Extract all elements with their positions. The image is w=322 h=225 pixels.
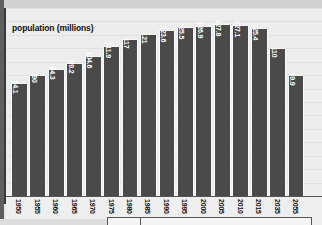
bar: 127.1 [232,25,249,196]
bar: 111.9 [103,46,120,196]
x-tick-label: 2005 [218,199,225,214]
bar: 121 [140,34,157,196]
bar: 89.9 [288,75,305,196]
bar: 99.2 [66,63,83,196]
bar: 104.6 [85,56,102,196]
bar-value-label: 89.9 [289,73,296,86]
bar: 110 [269,48,286,196]
x-tick-label: 2035 [274,199,281,214]
bar: 126.9 [195,26,212,196]
bar-value-label: 84.1 [12,81,19,94]
bar: 117 [122,39,139,196]
chart-frame: population (millions) 84.19094.399.2104.… [0,0,322,225]
plot-area: population (millions) 84.19094.399.2104.… [6,8,322,196]
bar-value-label: 126.9 [197,21,204,38]
x-tick-label: 1985 [144,199,151,214]
x-tick-label: 1970 [89,199,96,214]
bar-value-label: 111.9 [105,42,112,58]
bar: 125.4 [251,28,268,196]
bar-value-label: 127.1 [234,21,241,38]
x-tick-label: 2000 [200,199,207,214]
bar-value-label: 104.6 [86,51,93,68]
bar: 94.3 [48,69,65,196]
bar: 127.8 [214,24,231,196]
x-tick-label: 1990 [163,199,170,214]
x-tick-label: 1980 [126,199,133,214]
bar-value-label: 90 [31,75,38,82]
bar-value-label: 99.2 [68,60,75,73]
bottom-left-strip [0,219,107,225]
bar-value-label: 94.3 [49,67,56,80]
chart-title: population (millions) [12,23,93,33]
bar-value-label: 123.6 [160,26,167,43]
bar-value-label: 121 [141,32,148,43]
x-tick-label: 2055 [292,199,299,214]
gridline [6,8,322,9]
x-tick-label: 1975 [108,199,115,214]
x-tick-label: 1960 [52,199,59,214]
x-tick-label: 2015 [255,199,262,214]
bar-value-label: 127.8 [215,20,222,37]
bar: 125.5 [177,27,194,196]
bar-value-label: 110 [271,47,278,58]
bottom-table-divider [140,218,141,225]
bottom-table-fragment [107,217,312,225]
bar-value-label: 117 [123,38,130,49]
bar-value-label: 125.5 [178,23,185,40]
bar-value-label: 125.4 [252,23,259,40]
x-tick-label: 2010 [237,199,244,214]
x-tick-label: 1995 [181,199,188,214]
x-tick-label: 1965 [71,199,78,214]
x-tick-label: 1950 [15,199,22,214]
top-edge-strip [0,0,322,8]
bar: 90 [29,75,46,196]
x-tick-label: 1955 [34,199,41,214]
bar: 123.6 [159,30,176,196]
bar: 84.1 [11,83,28,196]
